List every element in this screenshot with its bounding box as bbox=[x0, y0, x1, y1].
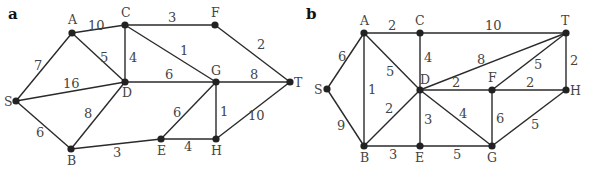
node-S bbox=[323, 85, 330, 92]
node-label-C: C bbox=[121, 5, 131, 20]
edge-weight-F-G: 6 bbox=[496, 111, 504, 126]
node-B bbox=[67, 145, 74, 152]
node-label-H: H bbox=[211, 143, 222, 158]
node-T bbox=[562, 29, 569, 36]
node-label-E: E bbox=[415, 150, 424, 165]
node-label-H: H bbox=[570, 83, 581, 98]
node-G bbox=[212, 78, 219, 85]
node-label-B: B bbox=[360, 150, 369, 165]
edge-weight-C-G: 1 bbox=[180, 43, 188, 58]
panel-label-a: a bbox=[8, 5, 18, 23]
edge-weight-S-B: 9 bbox=[337, 118, 345, 133]
node-label-B: B bbox=[67, 153, 76, 168]
edge-weight-S-A: 7 bbox=[34, 58, 42, 73]
edge-D-B bbox=[71, 82, 125, 149]
edge-weight-S-A: 6 bbox=[338, 49, 346, 64]
graph-b-edges: 62514108252292346535 bbox=[327, 18, 578, 162]
edge-weight-H-T: 10 bbox=[248, 108, 265, 123]
graph-b-nodes: ACTSDFHBEG bbox=[314, 13, 581, 165]
edge-weight-D-F: 2 bbox=[452, 75, 460, 90]
node-S bbox=[12, 97, 19, 104]
edge-weight-F-H: 2 bbox=[526, 75, 534, 90]
node-label-T: T bbox=[561, 13, 570, 28]
graph-panel-b: 62514108252292346535 ACTSDFHBEG b bbox=[306, 5, 581, 165]
edge-weight-D-B: 2 bbox=[385, 101, 393, 116]
node-A bbox=[360, 29, 367, 36]
edge-D-B bbox=[364, 90, 420, 146]
node-G bbox=[488, 142, 495, 149]
edge-weight-A-C: 2 bbox=[388, 18, 396, 33]
edge-weight-H-G: 5 bbox=[531, 117, 539, 132]
node-label-F: F bbox=[488, 70, 497, 85]
node-label-D: D bbox=[420, 72, 430, 87]
edge-weight-B-E: 3 bbox=[113, 145, 121, 160]
node-label-G: G bbox=[211, 63, 221, 78]
edge-weight-D-B: 8 bbox=[84, 106, 92, 121]
graph-a-nodes: ACFSDGTBEH bbox=[4, 5, 303, 168]
panel-label-b: b bbox=[306, 5, 317, 23]
edge-weight-G-H: 1 bbox=[220, 104, 228, 119]
node-B bbox=[360, 142, 367, 149]
edge-S-B bbox=[327, 89, 364, 146]
node-label-S: S bbox=[314, 82, 323, 97]
edge-weight-F-T: 5 bbox=[534, 57, 542, 72]
node-label-A: A bbox=[359, 13, 370, 28]
graph-a-edges: 71054312166868361410 bbox=[16, 10, 290, 160]
edge-weight-A-D: 5 bbox=[100, 50, 108, 65]
node-label-T: T bbox=[294, 75, 303, 90]
node-E bbox=[416, 142, 423, 149]
edge-weight-D-E: 3 bbox=[424, 112, 432, 127]
node-label-D: D bbox=[122, 85, 132, 100]
edge-weight-F-T: 2 bbox=[257, 37, 265, 52]
node-H bbox=[562, 86, 569, 93]
node-T bbox=[286, 78, 293, 85]
edge-weight-S-B: 6 bbox=[36, 125, 44, 140]
edge-weight-G-T: 8 bbox=[250, 67, 258, 82]
node-label-G: G bbox=[487, 150, 497, 165]
edge-weight-G-E: 6 bbox=[173, 105, 181, 120]
edge-weight-A-D: 5 bbox=[386, 64, 394, 79]
node-A bbox=[68, 29, 75, 36]
edge-weight-B-E: 3 bbox=[389, 147, 397, 162]
node-F bbox=[488, 86, 495, 93]
node-H bbox=[212, 135, 219, 142]
edge-weight-D-G: 4 bbox=[459, 106, 467, 121]
node-E bbox=[157, 135, 164, 142]
edge-weight-D-G: 6 bbox=[165, 67, 173, 82]
edge-weight-C-D: 4 bbox=[129, 50, 137, 65]
edge-A-D bbox=[72, 33, 125, 82]
edge-weight-T-H: 2 bbox=[570, 53, 578, 68]
graph-panel-a: 71054312166868361410 ACFSDGTBEH a bbox=[4, 5, 303, 168]
node-label-E: E bbox=[157, 143, 166, 158]
node-C bbox=[121, 21, 128, 28]
edge-weight-D-T: 8 bbox=[477, 52, 485, 67]
node-C bbox=[416, 29, 423, 36]
node-label-S: S bbox=[4, 94, 13, 109]
edge-weight-C-D: 4 bbox=[424, 50, 432, 65]
node-F bbox=[211, 21, 218, 28]
edge-G-E bbox=[161, 82, 216, 139]
node-label-F: F bbox=[211, 5, 220, 20]
edge-weight-S-D: 16 bbox=[63, 76, 80, 91]
node-D bbox=[416, 86, 423, 93]
edge-weight-A-C: 10 bbox=[88, 18, 105, 33]
edge-weight-C-F: 3 bbox=[168, 10, 176, 25]
edge-weight-A-B: 1 bbox=[368, 82, 376, 97]
edge-weight-E-H: 4 bbox=[184, 139, 192, 154]
edge-weight-C-T: 10 bbox=[485, 18, 502, 33]
weighted-graph-figure: 71054312166868361410 ACFSDGTBEH a 625141… bbox=[0, 0, 591, 172]
node-label-C: C bbox=[415, 13, 425, 28]
edge-weight-E-G: 5 bbox=[453, 147, 461, 162]
node-label-A: A bbox=[67, 12, 78, 27]
